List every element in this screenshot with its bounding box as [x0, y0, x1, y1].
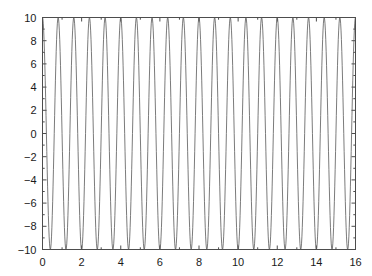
y-tick-label: 10 [24, 12, 36, 24]
y-tick-label: 6 [30, 58, 36, 70]
x-tick-label: 0 [39, 256, 45, 268]
y-tick-label: −2 [24, 151, 37, 163]
y-tick-label: −6 [24, 197, 37, 209]
y-tick-label: −8 [24, 220, 37, 232]
x-tick-label: 8 [196, 256, 202, 268]
y-tick-label: 0 [30, 128, 36, 140]
plot-background [0, 0, 372, 276]
x-tick-label: 4 [118, 256, 124, 268]
y-tick-label: −10 [18, 244, 37, 256]
figure-canvas: 1086420−2−4−6−8−10 0246810121416 [0, 0, 372, 276]
y-tick-label: −4 [24, 174, 37, 186]
x-tick-label: 10 [232, 256, 244, 268]
x-tick-label: 16 [349, 256, 361, 268]
y-tick-label: 8 [30, 35, 36, 47]
x-tick-label: 2 [79, 256, 85, 268]
chart-plot: 1086420−2−4−6−8−10 0246810121416 [0, 0, 372, 276]
y-tick-label: 4 [30, 81, 36, 93]
x-tick-label: 12 [271, 256, 283, 268]
y-tick-label: 2 [30, 104, 36, 116]
x-tick-label: 6 [157, 256, 163, 268]
x-tick-label: 14 [310, 256, 322, 268]
